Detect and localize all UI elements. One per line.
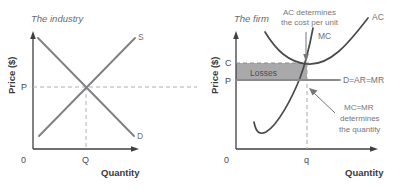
industry-x-tick-q: Q (82, 155, 89, 165)
firm-y-tick-c: C (225, 58, 232, 68)
figure-canvas: The industry S D Price ($) Quantity P Q … (0, 0, 407, 190)
firm-y-axis (233, 31, 239, 149)
firm-ac-curve-label: AC (372, 12, 384, 22)
firm-x-tick-q: q (304, 155, 309, 165)
industry-y-axis (30, 31, 36, 149)
firm-mcmr-annotation-line-2: determines (340, 114, 380, 123)
firm-origin-label: 0 (224, 155, 229, 165)
industry-y-axis-label: Price ($) (6, 57, 17, 95)
firm-losses-label: Losses (250, 68, 277, 78)
panel-firm: The firm (209, 8, 384, 178)
industry-origin-label: 0 (21, 155, 26, 165)
firm-mcmr-annotation-text: MC=MR determines the quantity (339, 103, 380, 134)
firm-ac-annotation-line-1: AC determines (283, 8, 336, 17)
panel-industry-title: The industry (31, 13, 85, 24)
industry-y-tick-p: P (21, 82, 27, 92)
firm-y-tick-p: P (225, 76, 231, 86)
firm-demand-curve-label: D=AR=MR (343, 75, 384, 85)
firm-ac-annotation-text: AC determines the cost per unit (281, 8, 339, 27)
industry-demand-curve-label: D (137, 131, 143, 141)
industry-supply-curve-label: S (138, 32, 144, 42)
firm-mcmr-annotation-line-1: MC=MR (344, 103, 374, 112)
firm-mc-curve-label: MC (318, 31, 331, 41)
firm-y-axis-label: Price ($) (209, 57, 220, 95)
firm-ac-annotation-arrow (303, 32, 309, 62)
firm-ac-annotation-line-2: the cost per unit (281, 18, 339, 27)
panel-firm-title: The firm (234, 13, 269, 24)
firm-mcmr-annotation-line-3: the quantity (339, 125, 380, 134)
economics-diagram-svg: The industry S D Price ($) Quantity P Q … (0, 0, 407, 190)
industry-x-axis-label: Quantity (101, 167, 140, 178)
firm-mcmr-annotation-arrow (309, 88, 335, 113)
panel-industry: The industry S D Price ($) Quantity P Q … (6, 13, 197, 178)
firm-x-axis-label: Quantity (345, 167, 384, 178)
